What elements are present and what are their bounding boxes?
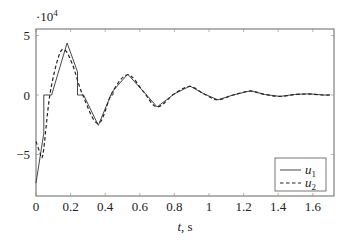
x-tick-label: 1.4 — [270, 199, 287, 214]
y-tick-label: 0 — [24, 88, 31, 103]
series-u2 — [36, 49, 330, 158]
x-tick-label: 1 — [206, 199, 213, 214]
y-tick-label: −5 — [16, 147, 30, 162]
x-tick-label: 0.2 — [62, 199, 78, 214]
y-axis-ticks: −505 — [16, 28, 334, 162]
x-axis-label: t, s — [177, 219, 192, 234]
x-tick-label: 0 — [33, 199, 40, 214]
legend-box — [275, 158, 326, 191]
line-chart: 00.20.40.60.811.21.41.6 −505 ·104 t, s u… — [0, 0, 349, 243]
legend: u1 u2 — [275, 158, 326, 192]
x-tick-label: 0.4 — [97, 199, 114, 214]
x-tick-label: 0.6 — [132, 199, 149, 214]
x-tick-label: 1.2 — [235, 199, 251, 214]
x-tick-label: 0.8 — [166, 199, 182, 214]
x-tick-label: 1.6 — [305, 199, 322, 214]
y-tick-label: 5 — [24, 28, 31, 43]
y-scale-multiplier: ·104 — [36, 8, 58, 24]
